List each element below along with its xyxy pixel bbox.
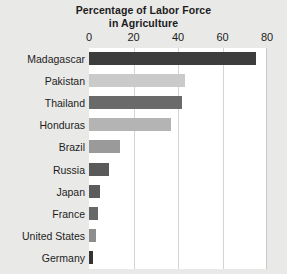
bar-brazil <box>89 140 120 153</box>
category-label-japan: Japan <box>0 181 85 203</box>
bar-madagascar <box>89 52 256 65</box>
category-label-madagascar: Madagascar <box>0 48 85 70</box>
chart-title-line-2: in Agriculture <box>0 17 287 30</box>
bars-layer <box>89 48 267 269</box>
category-label-germany: Germany <box>0 247 85 269</box>
category-label-pakistan: Pakistan <box>0 70 85 92</box>
bar-france <box>89 207 98 220</box>
x-tick-60: 60 <box>216 31 228 44</box>
bar-pakistan <box>89 74 185 87</box>
category-label-russia: Russia <box>0 159 85 181</box>
bar-row <box>89 181 267 203</box>
bar-row <box>89 48 267 70</box>
bar-germany <box>89 251 93 264</box>
bar-row <box>89 159 267 181</box>
bar-row <box>89 225 267 247</box>
x-tick-80: 80 <box>261 31 273 44</box>
bar-row <box>89 136 267 158</box>
chart-title: Percentage of Labor Force in Agriculture <box>0 4 287 29</box>
bar-row <box>89 92 267 114</box>
x-axis-tick-labels: 020406080 <box>0 31 287 46</box>
x-tick-40: 40 <box>172 31 184 44</box>
category-label-france: France <box>0 203 85 225</box>
bar-united-states <box>89 229 96 242</box>
bar-row <box>89 203 267 225</box>
bar-honduras <box>89 118 171 131</box>
category-label-honduras: Honduras <box>0 114 85 136</box>
x-tick-20: 20 <box>127 31 139 44</box>
category-label-thailand: Thailand <box>0 92 85 114</box>
bar-row <box>89 70 267 92</box>
x-tick-0: 0 <box>86 31 92 44</box>
bar-chart: Percentage of Labor Force in Agriculture… <box>0 0 287 274</box>
category-label-brazil: Brazil <box>0 136 85 158</box>
bar-russia <box>89 163 109 176</box>
bar-japan <box>89 185 100 198</box>
bar-row <box>89 247 267 269</box>
bar-row <box>89 114 267 136</box>
bar-thailand <box>89 96 182 109</box>
chart-title-line-1: Percentage of Labor Force <box>76 4 212 16</box>
category-labels: MadagascarPakistanThailandHondurasBrazil… <box>0 48 85 269</box>
category-label-united-states: United States <box>0 225 85 247</box>
